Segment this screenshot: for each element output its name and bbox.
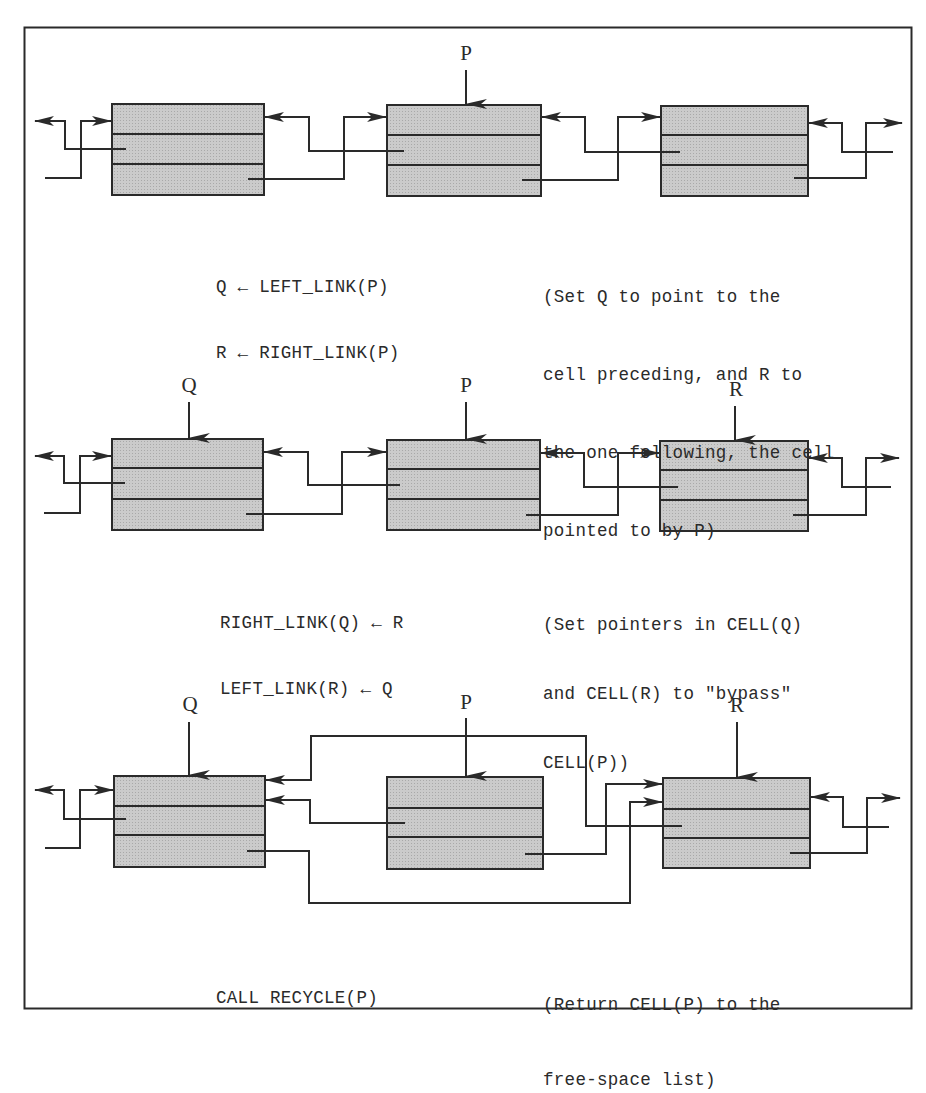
step1-code-line-1: Q ← LEFT_LINK(P): [216, 276, 400, 298]
step2-code-line-1: RIGHT_LINK(Q) ← R: [220, 612, 404, 634]
step3-code: CALL RECYCLE(P): [216, 943, 378, 1053]
step2-comment: (Set pointers in CELL(Q) and CELL(R) to …: [543, 568, 802, 821]
step3-comment-line-2: free-space list): [543, 1068, 781, 1093]
step1-comment: (Set Q to point to the cell preceding, a…: [543, 232, 835, 596]
step3-cell-1: [114, 776, 265, 867]
step1-comment-line-3: the one following, the cell: [543, 440, 835, 466]
step2-comment-line-1: (Set pointers in CELL(Q): [543, 614, 802, 637]
step1-cell-2: [387, 105, 541, 196]
step1-comment-line-4: pointed to by P): [543, 518, 835, 544]
step2-comment-line-3: CELL(P)): [543, 752, 802, 775]
step1-code-line-2: R ← RIGHT_LINK(P): [216, 342, 400, 364]
step2-cell-2: [387, 440, 540, 530]
step1-comment-line-2: cell preceding, and R to: [543, 362, 835, 388]
step3-cell-2-removed: [387, 777, 543, 869]
step1-comment-line-1: (Set Q to point to the: [543, 284, 835, 310]
step3-comment: (Return CELL(P) to the free-space list): [543, 943, 781, 1093]
step1-list: [35, 70, 902, 196]
step3-comment-line-1: (Return CELL(P) to the: [543, 993, 781, 1018]
step2-comment-line-2: and CELL(R) to "bypass": [543, 683, 802, 706]
step2-pointer-p-label: P: [460, 373, 472, 398]
step2-code-line-2: LEFT_LINK(R) ← Q: [220, 678, 404, 700]
step2-cell-1: [112, 439, 263, 530]
step3-code-line-1: CALL RECYCLE(P): [216, 987, 378, 1009]
step1-code: Q ← LEFT_LINK(P) R ← RIGHT_LINK(P): [216, 232, 400, 408]
step1-pointer-p-label: P: [460, 41, 472, 66]
step2-pointer-q-label: Q: [181, 373, 196, 398]
step1-cell-1: [112, 104, 264, 195]
step1-cell-3: [661, 106, 808, 196]
step2-code: RIGHT_LINK(Q) ← R LEFT_LINK(R) ← Q: [220, 568, 404, 744]
step3-pointer-p-label: P: [460, 690, 472, 715]
step3-pointer-q-label: Q: [182, 692, 197, 717]
